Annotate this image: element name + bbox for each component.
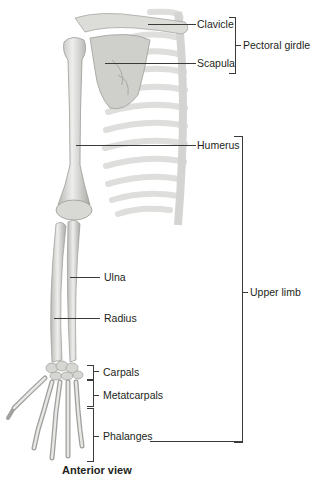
upper-limb-tick	[243, 292, 248, 293]
upper-limb-label: Upper limb	[250, 286, 301, 298]
ulna-label: Ulna	[104, 271, 126, 283]
pectoral-girdle-tick	[236, 45, 241, 46]
view-caption: Anterior view	[62, 464, 132, 476]
phalanges-label: Phalanges	[103, 430, 153, 442]
scapula-bone	[90, 34, 150, 108]
hand-bones	[8, 378, 82, 458]
phalanges-bracket	[87, 408, 94, 462]
carpals-bracket	[87, 365, 94, 380]
radius-label: Radius	[104, 312, 137, 324]
skeleton-illustration	[0, 0, 323, 490]
humerus-leader	[76, 145, 196, 146]
radius-bone	[51, 222, 66, 362]
humerus-bone	[58, 37, 90, 207]
sternum-edge	[178, 12, 183, 225]
scapula-leader	[105, 63, 196, 64]
radius-leader	[54, 318, 100, 319]
metacarpals-tick	[94, 395, 99, 396]
upper-limb-bracket	[234, 136, 243, 443]
metacarpals-label: Metatcarpals	[103, 389, 163, 401]
ulna-bone	[67, 220, 80, 362]
metacarpals-bracket	[87, 380, 94, 407]
ulna-leader	[70, 277, 100, 278]
carpals-tick	[94, 371, 99, 372]
clavicle-leader	[148, 24, 196, 25]
carpals-bones	[46, 361, 83, 380]
carpals-label: Carpals	[103, 366, 139, 378]
phalanges-tick	[94, 436, 99, 437]
phalanges-to-upper-limb-line	[150, 441, 243, 442]
pectoral-girdle-label: Pectoral girdle	[243, 39, 310, 51]
pectoral-girdle-bracket	[229, 17, 236, 74]
